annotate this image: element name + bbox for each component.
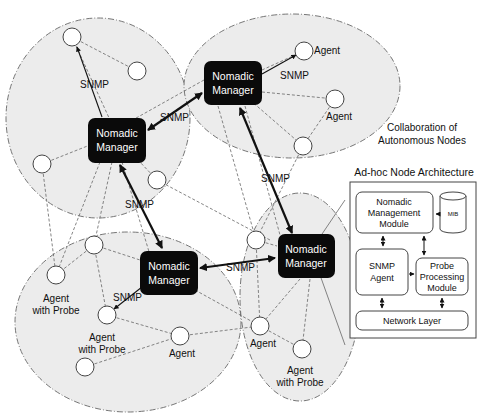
nomadic-management-module[interactable]: Nomadic Management Module [356,192,433,233]
agent-probe-label: with Probe [275,377,324,388]
snmp-agent-module[interactable]: SNMP Agent [356,249,408,295]
agent-probe-label: Agent [89,332,115,343]
agent-label: Agent [326,111,352,122]
snmp-label: SNMP [160,112,189,123]
architecture-panel: Ad-hoc Node Architecture Nomadic Managem… [350,166,476,338]
agent-node[interactable] [63,28,81,46]
snmp-label: SNMP [226,262,255,273]
agent-node[interactable] [247,231,265,249]
agent-node[interactable] [128,62,146,80]
module-label: Probe [430,261,454,271]
agent-node[interactable] [171,327,189,345]
module-label: Network Layer [383,316,441,326]
manager-label: Nomadic [148,260,189,272]
snmp-label: SNMP [113,292,142,303]
module-label: Processing [420,272,465,282]
collaboration-annotation: Collaboration of Autonomous Nodes [378,122,466,146]
probe-processing-module[interactable]: Probe Processing Module [416,258,468,295]
agent-node[interactable] [295,42,313,60]
manager-1[interactable]: Nomadic Manager [88,118,146,163]
manager-label: Manager [285,257,327,269]
network-layer[interactable]: Network Layer [356,311,468,330]
snmp-label: SNMP [261,173,290,184]
module-label: Agent [370,273,394,283]
architecture-title: Ad-hoc Node Architecture [354,166,474,178]
manager-4[interactable]: Nomadic Manager [278,234,335,278]
module-label: SNMP [369,261,395,271]
snmp-label: SNMP [80,79,109,90]
module-label: Management [368,208,421,218]
snmp-label: SNMP [280,70,309,81]
agent-node[interactable] [148,171,166,189]
manager-label: Manager [212,84,254,96]
agent-node[interactable] [85,236,103,254]
module-label: Module [379,219,409,229]
agent-probe-label: with Probe [77,344,126,355]
cluster-areas [6,14,400,412]
agent-node[interactable] [98,306,116,324]
manager-label: Manager [96,141,138,153]
agent-node[interactable] [33,155,51,173]
network-diagram: Nomadic Manager Nomadic Manager Nomadic … [0,0,485,418]
manager-label: Nomadic [96,127,137,139]
annotation-line: Autonomous Nodes [378,135,466,146]
agent-probe-label: with Probe [31,305,80,316]
agent-probe-label: Agent [43,293,69,304]
manager-2[interactable]: Nomadic Manager [204,61,262,105]
mib-label: MIB [448,211,459,217]
manager-label: Manager [148,274,190,286]
agent-node[interactable] [293,340,311,358]
agent-label: Agent [314,45,340,56]
agent-label: Agent [250,338,276,349]
module-label: Nomadic [376,197,412,207]
agent-probe-label: Agent [287,365,313,376]
agent-node[interactable] [76,358,94,376]
agent-node[interactable] [326,90,344,108]
agent-node[interactable] [294,137,312,155]
agent-node[interactable] [47,266,65,284]
snmp-label: SNMP [125,199,154,210]
agent-label: Agent [169,348,195,359]
module-label: Module [427,283,457,293]
manager-3[interactable]: Nomadic Manager [140,251,198,295]
manager-label: Nomadic [285,243,326,255]
mib-database-icon[interactable]: MIB [440,192,466,233]
manager-label: Nomadic [212,70,253,82]
cluster-bottom-left [15,232,241,412]
annotation-line: Collaboration of [387,122,457,133]
agent-node[interactable] [251,317,269,335]
